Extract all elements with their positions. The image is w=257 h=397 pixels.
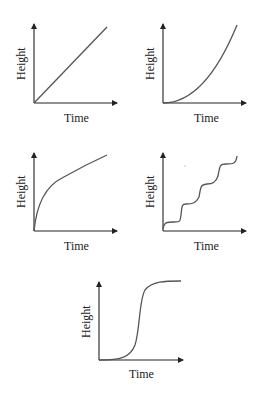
- speck: [184, 165, 185, 166]
- panel-sigmoid: Time Height: [79, 281, 183, 381]
- decelerating-curve: [34, 155, 107, 231]
- y-axis-label: Height: [14, 47, 28, 80]
- x-axis-label: Time: [64, 111, 89, 125]
- x-axis-label: Time: [194, 239, 219, 253]
- x-axis-label: Time: [129, 367, 154, 381]
- y-axis-label: Height: [143, 175, 157, 208]
- y-axis-label: Height: [143, 47, 157, 80]
- growth-curves-figure: Time Height Time Height Time Height Time…: [0, 0, 257, 397]
- panel-decelerating: Time Height: [14, 153, 117, 253]
- panel-stepwise: Time Height: [143, 153, 246, 253]
- x-axis-label: Time: [64, 239, 89, 253]
- panel-accelerating: Time Height: [143, 24, 246, 125]
- accelerating-curve: [163, 25, 237, 103]
- y-axis-label: Height: [14, 175, 28, 208]
- y-axis-label: Height: [79, 305, 93, 338]
- linear-curve: [34, 27, 107, 103]
- x-axis-label: Time: [194, 111, 219, 125]
- stepwise-curve: [163, 156, 237, 229]
- sigmoid-curve: [99, 281, 181, 360]
- panel-linear: Time Height: [14, 24, 117, 125]
